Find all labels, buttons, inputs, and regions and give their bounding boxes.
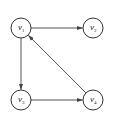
edge-v4-v1	[28, 35, 86, 93]
directed-graph: v1v2v3v4	[0, 0, 120, 120]
node-v2: v2	[83, 18, 103, 38]
edges	[21, 28, 86, 100]
node-v1: v1	[11, 18, 31, 38]
node-v4: v4	[83, 90, 103, 110]
node-v3: v3	[11, 90, 31, 110]
